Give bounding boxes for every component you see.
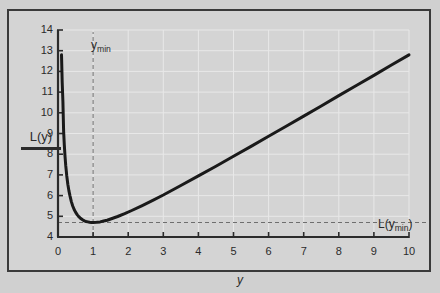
y-axis-tick-label: 11: [31, 86, 53, 97]
grid-lines: [58, 30, 409, 237]
y-axis-title: L(y): [18, 130, 64, 150]
figure-canvas: 4567891011121314 012345678910 L(y) ymin …: [0, 0, 440, 293]
x-axis-tick-label: 3: [153, 246, 173, 257]
y-axis-tick-label: 13: [31, 45, 53, 56]
ymin-annotation-label: ymin: [91, 39, 111, 55]
ymin-annotation-subscript: min: [97, 44, 111, 54]
x-axis-title: y: [237, 274, 243, 286]
x-axis-tick-label: 9: [364, 246, 384, 257]
dashed-annotation-lines: [58, 32, 429, 237]
y-axis-tick-label: 6: [31, 190, 53, 201]
x-axis-tick-label: 4: [188, 246, 208, 257]
y-axis-tick-label: 12: [31, 65, 53, 76]
x-axis-tick-label: 0: [48, 246, 68, 257]
lymin-annotation-prefix: L(y: [378, 217, 395, 231]
lymin-annotation-label: L(ymin): [378, 218, 413, 234]
x-axis-tick-label: 2: [118, 246, 138, 257]
y-axis-tick-label: 10: [31, 107, 53, 118]
plot-frame: 4567891011121314 012345678910 L(y) ymin …: [7, 9, 431, 272]
x-axis-tick-label: 1: [83, 246, 103, 257]
x-axis-tick-label: 6: [259, 246, 279, 257]
x-axis-tick-label: 10: [399, 246, 419, 257]
lymin-annotation-suffix: ): [409, 217, 413, 231]
data-curve: [62, 55, 409, 223]
y-axis-tick-label: 14: [31, 24, 53, 35]
y-axis-title-text: L(y): [18, 130, 64, 144]
x-axis-tick-label: 5: [224, 246, 244, 257]
y-axis-tick-label: 7: [31, 169, 53, 180]
y-axis-tick-label: 5: [31, 210, 53, 221]
x-axis-tick-label: 8: [329, 246, 349, 257]
lymin-annotation-subscript: min: [395, 223, 409, 233]
y-axis-title-underline: [21, 147, 61, 150]
x-axis-tick-label: 7: [294, 246, 314, 257]
chart-svg: [9, 11, 429, 270]
y-axis-tick-label: 4: [31, 231, 53, 242]
